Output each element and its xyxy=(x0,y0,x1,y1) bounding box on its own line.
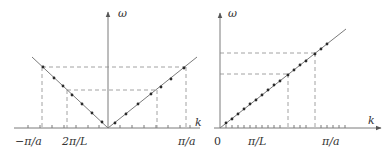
dispersion-diagram: ω k −π/a 2π/L π/a xyxy=(0,0,389,153)
left-panel: ω k −π/a 2π/L π/a xyxy=(14,7,202,148)
left-tick-label-neg-pi-a: −π/a xyxy=(15,135,42,148)
left-mode-points xyxy=(42,66,186,125)
right-k-label: k xyxy=(368,114,375,127)
left-tick-label-2pi-L: 2π/L xyxy=(61,135,87,148)
right-omega-label: ω xyxy=(228,7,237,20)
right-tick-label-pi-L: π/L xyxy=(247,135,266,148)
left-omega-label: ω xyxy=(118,7,127,20)
right-tick-label-zero: 0 xyxy=(214,135,221,148)
left-tick-label-pi-a: π/a xyxy=(177,135,196,148)
right-tick-label-pi-a: π/a xyxy=(321,135,340,148)
left-dispersion-curve xyxy=(32,57,197,128)
right-panel: ω k 0 π/L π/a xyxy=(214,7,381,148)
left-dashed-guides xyxy=(42,67,186,128)
left-k-label: k xyxy=(195,116,202,129)
